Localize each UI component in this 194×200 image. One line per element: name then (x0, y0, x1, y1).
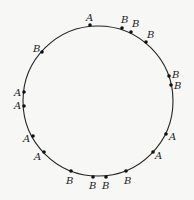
circle-diagram: ABBBBBAABBBBAAAAB (0, 0, 194, 200)
point-dot (31, 134, 35, 138)
point-dot (164, 132, 168, 136)
point-b: B (32, 43, 44, 54)
point-b: B (129, 18, 139, 34)
point-b: B (88, 175, 96, 191)
point-dot (22, 90, 26, 94)
point-label: B (131, 18, 139, 29)
point-label: B (123, 175, 131, 186)
point-dot (40, 50, 44, 54)
point-label: A (168, 131, 176, 142)
point-dot (91, 175, 95, 179)
point-dot (22, 104, 26, 108)
point-label: B (88, 180, 96, 191)
points-layer: ABBBBBAABBBBAAAAB (13, 12, 181, 191)
point-dot (124, 169, 128, 173)
point-dot (69, 169, 73, 173)
point-b: B (120, 14, 128, 30)
point-dot (129, 30, 133, 34)
point-a: A (85, 12, 93, 27)
point-b: B (144, 29, 154, 44)
point-label: A (33, 151, 41, 162)
point-label: B (101, 180, 109, 191)
point-b: B (65, 169, 73, 186)
point-dot (42, 150, 46, 154)
point-label: B (32, 43, 40, 54)
point-dot (88, 23, 92, 27)
point-dot (120, 26, 124, 30)
point-label: B (171, 69, 179, 80)
circle (23, 26, 173, 176)
point-dot (167, 74, 171, 78)
point-label: A (22, 133, 30, 144)
point-label: B (146, 29, 154, 40)
point-a: A (151, 150, 162, 161)
point-label: A (13, 87, 21, 98)
point-label: A (154, 150, 162, 161)
point-label: B (173, 80, 181, 91)
point-dot (104, 175, 108, 179)
point-dot (144, 40, 148, 44)
point-a: A (164, 131, 176, 142)
point-b: B (101, 175, 109, 191)
point-label: B (120, 14, 128, 25)
point-dot (169, 83, 173, 87)
point-label: A (13, 100, 21, 111)
point-label: A (85, 12, 93, 23)
point-label: B (65, 175, 73, 186)
point-a: A (33, 150, 46, 162)
